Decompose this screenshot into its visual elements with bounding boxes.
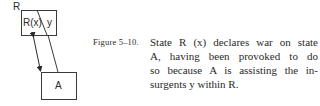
war-double-arrow bbox=[34, 37, 41, 71]
caption-line: State R (x) declares war on state bbox=[150, 35, 318, 49]
caption-line: surgents y within R. bbox=[150, 77, 318, 91]
insurgents-y-label: y bbox=[47, 18, 52, 28]
outer-state-label: R bbox=[13, 2, 20, 12]
figure-label: Figure 5–10. bbox=[93, 35, 139, 49]
caption-text: State R (x) declares war on state A, hav… bbox=[150, 35, 318, 91]
war-diagram: R R(x) y A bbox=[0, 0, 90, 106]
caption-line: A, having been provoked to do bbox=[150, 49, 318, 63]
state-a-label: A bbox=[55, 81, 62, 91]
assistance-line bbox=[48, 35, 58, 72]
caption-line: so because A is assisting the in- bbox=[150, 63, 318, 77]
diagram-lines bbox=[0, 0, 90, 106]
state-r-x-label: R(x) bbox=[23, 18, 42, 28]
